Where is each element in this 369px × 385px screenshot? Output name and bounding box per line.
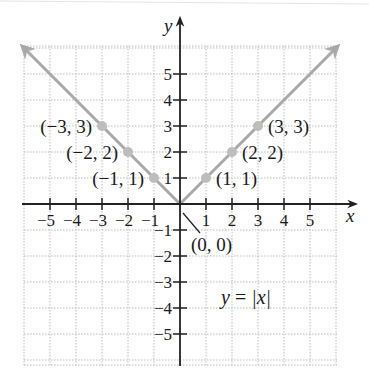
y-tick-label: 1 [164, 169, 173, 188]
equation-label: y = |x| [219, 286, 271, 309]
y-axis-label: y [162, 15, 173, 36]
plotted-points: (−3, 3)(−2, 2)(−1, 1)(0, 0)(1, 1)(2, 2)(… [40, 116, 309, 256]
equation-rhs: |x| [251, 286, 271, 309]
absolute-value-graph: −5−4−3−2−112345−5−4−3−2−112345 (−3, 3)(−… [0, 0, 369, 385]
data-point [201, 173, 211, 183]
axes [22, 18, 356, 366]
y-tick-label: 2 [164, 143, 173, 162]
x-tick-label: 5 [306, 211, 315, 230]
scan-edge-line [0, 1, 369, 4]
x-tick-label: 3 [254, 211, 263, 230]
y-tick-label: 4 [164, 91, 173, 110]
point-label: (−1, 1) [92, 168, 144, 190]
point-label: (2, 2) [242, 142, 283, 164]
data-point [253, 121, 263, 131]
point-label: (−3, 3) [40, 116, 92, 138]
data-point [97, 121, 107, 131]
x-tick-label: 1 [202, 211, 211, 230]
coordinate-plane: −5−4−3−2−112345−5−4−3−2−112345 (−3, 3)(−… [0, 0, 369, 385]
y-tick-label: −1 [154, 221, 172, 240]
y-tick-label: −4 [154, 299, 173, 318]
x-axis-label: x [345, 205, 355, 226]
point-label: (0, 0) [191, 234, 232, 256]
x-tick-label: −4 [63, 211, 82, 230]
x-tick-label: 2 [228, 211, 237, 230]
y-tick-label: −5 [154, 325, 172, 344]
x-tick-label: −3 [89, 211, 107, 230]
y-tick-label: 3 [164, 117, 173, 136]
data-point [227, 147, 237, 157]
equation-equals: = [230, 286, 251, 308]
point-label: (−2, 2) [66, 142, 118, 164]
x-tick-label: 4 [280, 211, 289, 230]
x-tick-label: −5 [37, 211, 55, 230]
y-tick-label: −2 [154, 247, 172, 266]
y-tick-label: 5 [164, 65, 173, 84]
x-tick-label: −2 [115, 211, 133, 230]
equation-lhs: y [219, 286, 230, 309]
point-label: (1, 1) [216, 168, 257, 190]
point-label: (3, 3) [268, 116, 309, 138]
data-point [123, 147, 133, 157]
y-tick-label: −3 [154, 273, 172, 292]
data-point [149, 173, 159, 183]
